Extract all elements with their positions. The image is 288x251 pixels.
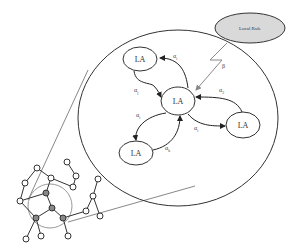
edge-label-right-in: α2	[219, 87, 224, 95]
svg-text:LA: LA	[238, 121, 249, 130]
edge-label-top-out: αi	[173, 53, 178, 61]
cla-diagram: Local Rule β LA LA LA LA αi α	[0, 0, 288, 251]
edge-label-right-out: αi	[194, 125, 199, 133]
reinforcement-signal: β	[196, 43, 227, 90]
edge-label-bottom-out: αi	[136, 112, 141, 120]
svg-text:LA: LA	[131, 149, 142, 158]
svg-text:LA: LA	[135, 55, 146, 64]
graph-nodes	[17, 159, 103, 242]
la-bottom-left: LA	[119, 141, 153, 165]
local-rule: Local Rule	[215, 13, 285, 43]
local-rule-label: Local Rule	[239, 26, 262, 31]
edge-label-top-in: αj	[134, 87, 138, 95]
beta-label: β	[222, 63, 225, 69]
svg-text:LA: LA	[173, 97, 184, 106]
la-center: LA	[161, 87, 195, 115]
la-right: LA	[226, 112, 260, 138]
edge-label-bottom-in: αk	[165, 145, 170, 153]
la-top-left: LA	[123, 47, 157, 71]
cellular-graph	[17, 159, 103, 242]
